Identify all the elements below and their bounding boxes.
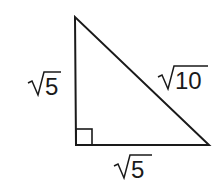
left-leg-label: 5 [28,72,61,100]
bottom-leg-radicand: 5 [131,156,144,183]
left-leg-radicand: 5 [45,73,58,100]
hypotenuse-label: 10 [158,66,208,94]
triangle-diagram: 5 10 5 [0,0,222,186]
bottom-leg-label: 5 [114,155,152,183]
hypotenuse-radicand: 10 [175,67,202,94]
right-angle-marker [76,129,92,145]
